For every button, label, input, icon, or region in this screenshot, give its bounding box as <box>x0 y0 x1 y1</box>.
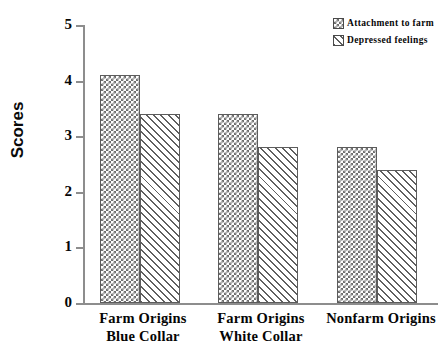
x-category-label-2-line1: Nonfarm Origins <box>326 310 436 326</box>
x-category-label-0-line1: Farm Origins <box>99 310 186 326</box>
bar-attachment-to-farm-0 <box>100 75 140 303</box>
bar-depressed-feelings-0 <box>140 114 180 303</box>
y-tick-label-3: 3 <box>48 128 72 143</box>
y-tick-mark-0 <box>76 303 83 305</box>
legend-label-depressed-feelings: Depressed feelings <box>347 35 428 45</box>
legend-item-attachment-to-farm: Attachment to farm <box>333 17 444 29</box>
y-tick-label-4: 4 <box>48 73 72 88</box>
y-tick-mark-5 <box>76 25 83 27</box>
legend-item-depressed-feelings: Depressed feelings <box>333 34 444 46</box>
x-axis-line <box>83 303 438 305</box>
y-tick-label-5: 5 <box>48 17 72 32</box>
y-tick-label-1: 1 <box>48 239 72 254</box>
y-axis-title: Scores <box>8 80 28 180</box>
y-tick-mark-3 <box>76 136 83 138</box>
x-category-label-1-line2: White Collar <box>200 327 322 345</box>
y-tick-mark-4 <box>76 81 83 83</box>
y-tick-label-2: 2 <box>48 184 72 199</box>
x-category-label-0: Farm Origins Blue Collar <box>82 309 204 345</box>
y-tick-label-0: 0 <box>48 295 72 310</box>
x-category-label-0-line2: Blue Collar <box>82 327 204 345</box>
x-category-label-1: Farm Origins White Collar <box>200 309 322 345</box>
bar-attachment-to-farm-1 <box>218 114 258 303</box>
diagonal-hatch-swatch-icon <box>333 35 344 46</box>
y-tick-mark-1 <box>76 247 83 249</box>
bar-chart: Scores 5 4 3 2 1 0 Farm Origins Blue Col… <box>0 0 444 355</box>
bar-attachment-to-farm-2 <box>337 147 377 303</box>
bar-group-0 <box>100 25 195 303</box>
x-category-label-2: Nonfarm Origins <box>318 309 444 327</box>
legend-label-attachment-to-farm: Attachment to farm <box>347 18 434 28</box>
y-tick-mark-2 <box>76 192 83 194</box>
bar-group-1 <box>218 25 313 303</box>
plot-area <box>85 25 438 303</box>
bar-group-2 <box>337 25 432 303</box>
x-category-label-1-line1: Farm Origins <box>217 310 304 326</box>
bar-depressed-feelings-1 <box>258 147 298 303</box>
bar-depressed-feelings-2 <box>377 170 417 303</box>
crosshatch-swatch-icon <box>333 18 344 29</box>
chart-legend: Attachment to farm Depressed feelings <box>333 17 444 51</box>
